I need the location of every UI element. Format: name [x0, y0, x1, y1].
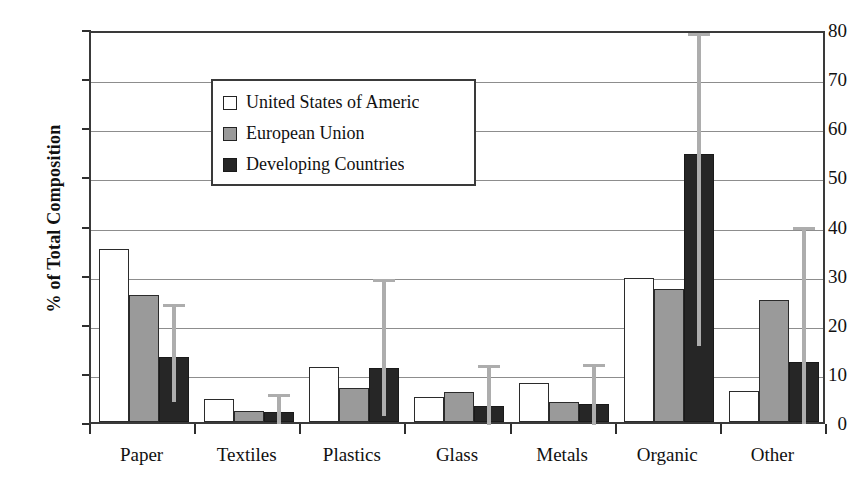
x-tick-mark — [825, 424, 827, 434]
bar — [234, 411, 264, 422]
bar — [414, 397, 444, 422]
bar-chart-figure: % of Total Composition 01020304050607080… — [0, 0, 847, 494]
legend-label-usa: United States of Americ — [246, 92, 419, 113]
error-bar-cap — [793, 227, 815, 230]
bar — [444, 392, 474, 422]
legend-swatch-eu — [223, 127, 237, 141]
error-bar-cap — [163, 304, 185, 307]
error-bar-line — [487, 365, 491, 424]
error-bar-line — [802, 227, 806, 424]
error-bar-cap — [478, 365, 500, 368]
x-tick-label: Metals — [502, 444, 622, 466]
error-bar-line — [172, 304, 176, 402]
bar — [339, 388, 369, 422]
x-tick-mark — [194, 424, 196, 434]
legend-label-developing: Developing Countries — [246, 154, 404, 175]
y-axis-title: % of Total Composition — [44, 69, 65, 369]
bar — [624, 278, 654, 422]
legend-swatch-developing — [223, 158, 237, 172]
legend-item-usa: United States of Americ — [223, 87, 474, 118]
error-bar-cap — [268, 394, 290, 397]
bar — [204, 399, 234, 422]
x-tick-mark — [615, 424, 617, 434]
bar — [654, 289, 684, 422]
bar — [549, 402, 579, 422]
plot-area: United States of Americ European Union D… — [89, 31, 825, 424]
x-tick-mark — [299, 424, 301, 434]
error-bar-cap — [373, 279, 395, 282]
legend-item-developing: Developing Countries — [223, 149, 474, 180]
x-tick-label: Paper — [82, 444, 202, 466]
error-bar-cap — [583, 364, 605, 367]
x-tick-mark — [510, 424, 512, 434]
x-tick-label: Organic — [607, 444, 727, 466]
error-bar-line — [277, 394, 281, 424]
error-bar-line — [592, 364, 596, 424]
error-bar-cap — [688, 33, 710, 36]
error-bar-line — [697, 33, 701, 346]
chart-legend: United States of Americ European Union D… — [211, 79, 476, 186]
bar — [519, 383, 549, 422]
bar — [99, 249, 129, 422]
bar — [309, 367, 339, 423]
x-tick-mark — [720, 424, 722, 434]
bar — [729, 391, 759, 422]
x-tick-mark — [404, 424, 406, 434]
x-tick-label: Plastics — [292, 444, 412, 466]
bar — [129, 295, 159, 422]
bar — [759, 300, 789, 422]
x-tick-label: Textiles — [187, 444, 307, 466]
x-tick-label: Other — [712, 444, 832, 466]
error-bar-line — [382, 279, 386, 417]
legend-label-eu: European Union — [246, 123, 364, 144]
legend-item-eu: European Union — [223, 118, 474, 149]
legend-swatch-usa — [223, 96, 237, 110]
x-tick-label: Glass — [397, 444, 517, 466]
x-tick-mark — [89, 424, 91, 434]
